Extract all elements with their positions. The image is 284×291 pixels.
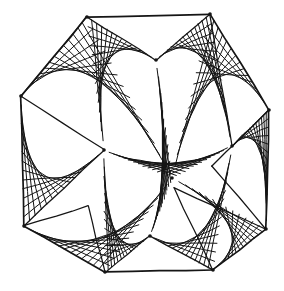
string-art-canvas: [0, 0, 284, 291]
curve-stitching-figure: [0, 0, 284, 291]
